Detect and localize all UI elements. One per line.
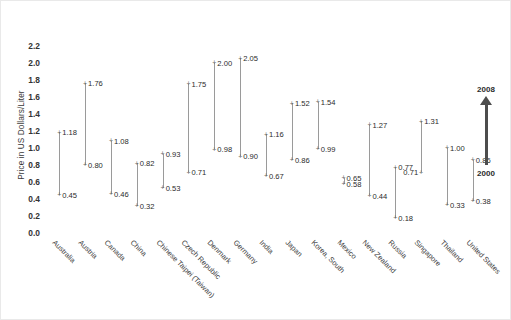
marker-2008	[315, 99, 320, 104]
value-label-2000: 0.98	[217, 145, 232, 154]
legend-label-2008: 2008	[466, 85, 506, 94]
value-label-2000: 0.67	[269, 171, 284, 180]
value-label-2008: 1.16	[269, 130, 284, 139]
x-axis-tick-label: Thailand	[439, 238, 465, 264]
marker-2000	[445, 202, 450, 207]
connector-line	[369, 125, 370, 196]
connector-line	[266, 134, 267, 176]
value-label-2000: 0.90	[243, 152, 258, 161]
connector-line	[111, 141, 112, 194]
marker-2000	[264, 173, 269, 178]
connector-line	[318, 102, 319, 149]
marker-2008	[367, 122, 372, 127]
marker-2000	[186, 170, 191, 175]
x-axis-tick-label: India	[258, 238, 276, 256]
value-label-2000: 0.86	[295, 155, 310, 164]
connector-line	[85, 83, 86, 165]
marker-2000	[57, 192, 62, 197]
x-axis-tick-label: Mexico	[335, 238, 358, 261]
x-axis-tick-label: Japan	[284, 238, 305, 259]
marker-2008	[289, 101, 294, 106]
marker-2008	[445, 145, 450, 150]
value-label-2008: 1.75	[191, 79, 206, 88]
marker-2008	[264, 132, 269, 137]
value-label-2008: 1.27	[372, 120, 387, 129]
x-axis-tick-label: Austria	[77, 238, 100, 261]
connector-line	[188, 84, 189, 173]
value-label-2000: 0.38	[476, 196, 491, 205]
connector-line	[240, 58, 241, 156]
x-axis-tick-label: Russia	[387, 238, 409, 260]
value-label-2000: 0.32	[140, 201, 155, 210]
marker-2008	[212, 60, 217, 65]
marker-2000	[393, 215, 398, 220]
marker-2008	[57, 130, 62, 135]
value-label-2000: 0.18	[398, 213, 413, 222]
x-axis-tick-label: China	[128, 238, 148, 258]
value-label-2008: 1.08	[114, 136, 129, 145]
connector-line	[59, 132, 60, 194]
value-label-2008: 0.93	[166, 149, 181, 158]
marker-2000	[238, 154, 243, 159]
value-label-2008: 1.52	[295, 99, 310, 108]
value-label-2008: 1.18	[62, 128, 77, 137]
marker-2000	[83, 162, 88, 167]
x-axis-tick-label: Australia	[51, 238, 78, 265]
marker-2000	[212, 147, 217, 152]
marker-2000	[315, 146, 320, 151]
marker-2000	[367, 193, 372, 198]
x-axis-tick-label: Germany	[232, 238, 260, 266]
value-label-2000: 0.44	[372, 191, 387, 200]
connector-line	[163, 154, 164, 188]
marker-2000	[419, 170, 424, 175]
marker-2000	[341, 181, 346, 186]
connector-line	[447, 148, 448, 205]
value-label-2000: 0.99	[321, 144, 336, 153]
x-axis-tick-label: Singapore	[413, 238, 443, 268]
marker-2000	[108, 191, 113, 196]
marker-2008	[134, 161, 139, 166]
marker-2000	[289, 157, 294, 162]
marker-2008	[160, 151, 165, 156]
marker-2000	[160, 185, 165, 190]
chart-figure: 0.00.20.40.60.81.01.21.41.61.82.02.2 Pri…	[0, 0, 511, 320]
legend: 2008 2000	[466, 85, 506, 185]
marker-2008	[419, 119, 424, 124]
marker-2008	[83, 81, 88, 86]
value-label-2000: 0.33	[450, 200, 465, 209]
legend-arrow-shaft	[485, 103, 488, 165]
y-axis-title: Price in US Dollars/Liter	[17, 37, 31, 233]
value-label-2008: 0.82	[140, 159, 155, 168]
value-label-2000: 0.58	[347, 179, 362, 188]
marker-2000	[134, 203, 139, 208]
value-label-2000: 0.46	[114, 189, 129, 198]
connector-line	[214, 63, 215, 150]
value-label-2008: 2.05	[243, 54, 258, 63]
marker-2008	[238, 56, 243, 61]
connector-line	[421, 121, 422, 172]
value-label-2008: 1.31	[424, 117, 439, 126]
connector-line	[292, 103, 293, 159]
marker-2008	[186, 81, 191, 86]
value-label-2008: 1.76	[88, 79, 103, 88]
marker-2008	[393, 165, 398, 170]
legend-label-2000: 2000	[466, 169, 506, 178]
marker-2008	[108, 138, 113, 143]
value-label-2000: 0.71	[403, 168, 418, 177]
plot-area: 0.00.20.40.60.81.01.21.41.61.82.02.2 Pri…	[45, 37, 500, 233]
x-axis-tick-label: Canada	[103, 238, 128, 263]
value-label-2000: 0.80	[88, 160, 103, 169]
connector-line	[137, 163, 138, 206]
value-label-2008: 1.54	[321, 97, 336, 106]
value-label-2000: 0.53	[166, 183, 181, 192]
x-axis-tick-label: United States	[464, 238, 502, 276]
value-label-2000: 0.71	[191, 168, 206, 177]
value-label-2008: 2.00	[217, 58, 232, 67]
marker-2000	[470, 198, 475, 203]
connector-line	[395, 167, 396, 217]
value-label-2000: 0.45	[62, 190, 77, 199]
value-label-2008: 1.00	[450, 143, 465, 152]
